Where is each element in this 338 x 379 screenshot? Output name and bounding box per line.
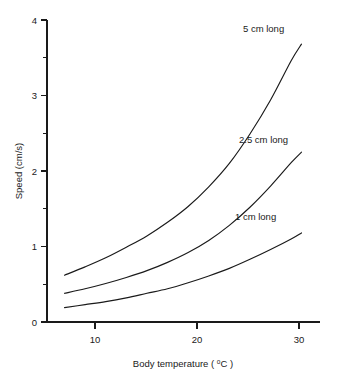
speed-vs-body-temperature-chart: 4 3 2 1 0 10 20 30 Speed (cm/s) Body tem… [0, 0, 338, 379]
y-tick-label-1: 1 [32, 241, 37, 252]
x-axis-tick-labels: 10 20 30 [90, 334, 305, 345]
x-axis-title-prefix: Body temperature ( [133, 358, 217, 369]
y-axis-ticks [41, 20, 47, 322]
series-curve-1cm [65, 233, 302, 308]
x-tick-label-20: 20 [192, 334, 203, 345]
y-axis-title: Speed (cm/s) [13, 143, 24, 200]
y-tick-label-0: 0 [32, 317, 37, 328]
series-label-2p5cm: 2.5 cm long [239, 134, 288, 145]
x-tick-label-10: 10 [90, 334, 101, 345]
x-axis-title: Body temperature ( oC ) [133, 358, 233, 370]
x-tick-label-30: 30 [294, 334, 305, 345]
series-curve-5cm [65, 44, 302, 275]
y-axis-tick-labels: 4 3 2 1 0 [32, 15, 37, 328]
x-axis-title-group: Body temperature ( oC ) [133, 358, 233, 370]
y-tick-label-4: 4 [32, 15, 37, 26]
y-tick-label-3: 3 [32, 90, 37, 101]
series-curves [65, 44, 302, 307]
series-label-5cm: 5 cm long [243, 23, 284, 34]
x-axis-title-suffix: C ) [220, 358, 233, 369]
plot-axes [47, 20, 320, 322]
series-label-1cm: 1 cm long [235, 211, 276, 222]
series-inline-labels: 5 cm long 2.5 cm long 1 cm long [235, 23, 288, 222]
series-curve-2p5cm [65, 152, 302, 293]
y-tick-label-2: 2 [32, 166, 37, 177]
y-axis-title-group: Speed (cm/s) [13, 143, 24, 200]
x-axis-ticks [95, 322, 299, 329]
chart-container: 4 3 2 1 0 10 20 30 Speed (cm/s) Body tem… [0, 0, 338, 379]
